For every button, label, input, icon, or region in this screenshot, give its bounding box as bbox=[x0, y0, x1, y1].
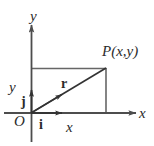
unit-vector-j-label: j bbox=[21, 95, 26, 109]
point-p-label: P(x,y) bbox=[102, 44, 138, 59]
origin-label: O bbox=[14, 114, 25, 129]
y-axis-label: y bbox=[30, 9, 37, 24]
position-vector-r-arrowhead bbox=[31, 94, 62, 113]
horizontal-component-label: x bbox=[66, 120, 73, 135]
x-axis-label: x bbox=[139, 106, 146, 121]
unit-vector-i-label: i bbox=[39, 118, 43, 132]
vector-diagram-figure: y x P(x,y) y x O i j r bbox=[0, 0, 154, 146]
position-vector-r-label: r bbox=[61, 77, 67, 91]
vertical-component-label: y bbox=[9, 80, 16, 95]
